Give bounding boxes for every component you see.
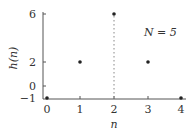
x-tick-label: 0 [44,103,51,116]
chart: 6 2 0 −1 0 1 2 3 4 n h(n) N = 5 [0,0,192,135]
x-tick-label: 2 [111,103,118,116]
data-point [179,96,183,100]
x-tick-label: 4 [178,103,185,116]
data-point [146,60,150,64]
y-tick-label: −1 [20,92,36,105]
data-point [112,12,116,16]
y-axis-label: h(n) [7,47,20,70]
data-point [45,96,49,100]
x-tick-label: 1 [77,103,84,116]
x-tick-label: 3 [145,103,152,116]
x-axis-label: n [110,118,117,131]
y-tick-label: 6 [29,8,36,21]
data-point [78,60,82,64]
y-tick-label: 2 [29,56,36,69]
annotation-n-equals: N = 5 [143,26,177,39]
